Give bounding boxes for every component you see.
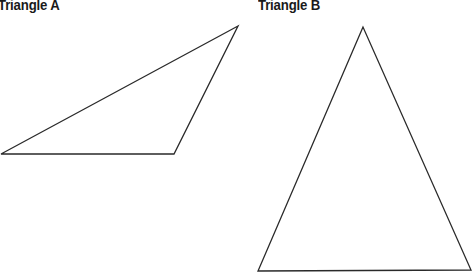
triangles-canvas — [0, 0, 475, 280]
triangle-a — [1, 26, 238, 154]
triangle-b — [258, 27, 471, 271]
